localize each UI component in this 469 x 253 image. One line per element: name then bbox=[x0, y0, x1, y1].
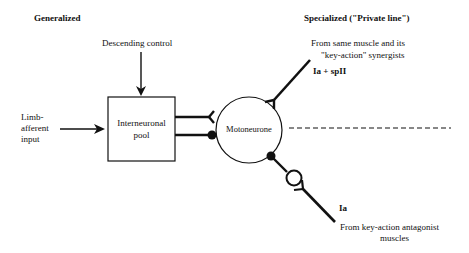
descending-control-label: Descending control bbox=[102, 38, 172, 49]
limb-afferent-label-3: input bbox=[21, 134, 40, 145]
interneuronal-pool-box bbox=[108, 97, 175, 161]
ia-spii-label: Ia + spII bbox=[313, 66, 346, 77]
inhibitory-synapse-icon bbox=[175, 131, 217, 140]
heading-generalized: Generalized bbox=[34, 13, 81, 24]
limb-afferent-label-1: Limb- bbox=[21, 112, 44, 123]
synergist-label-2: "key-action" synergists bbox=[321, 50, 404, 61]
antagonist-label-1: From key-action antagonist bbox=[340, 222, 439, 233]
motoneurone-label: Motoneurone bbox=[216, 124, 282, 135]
antagonist-pathway bbox=[267, 152, 336, 223]
interneuronal-pool-label-1: Interneuronal bbox=[108, 118, 175, 129]
excitatory-synapse-icon bbox=[175, 111, 214, 123]
synergist-label-1: From same muscle and its bbox=[311, 38, 405, 49]
inhibitory-interneurone-circle bbox=[287, 171, 302, 186]
interneuronal-pool-label-2: pool bbox=[108, 130, 175, 141]
limb-afferent-label-2: afferent bbox=[21, 123, 49, 134]
heading-specialized: Specialized ("Private line") bbox=[304, 13, 409, 24]
limb-afferent-arrow bbox=[60, 124, 105, 134]
descending-control-arrow bbox=[136, 52, 146, 96]
synergist-afferent-line bbox=[265, 60, 310, 109]
ia-label: Ia bbox=[339, 203, 347, 214]
antagonist-label-2: muscles bbox=[380, 233, 409, 244]
